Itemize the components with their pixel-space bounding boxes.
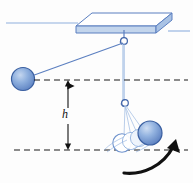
diagram-svg: [0, 0, 193, 183]
lower-pivot-hook: [121, 100, 128, 107]
figure-canvas: h: [0, 0, 193, 183]
string-to-raised-ball: [26, 43, 123, 78]
swinging-ball: [138, 121, 162, 145]
height-label: h: [62, 108, 68, 120]
raised-ball: [12, 68, 35, 91]
vertical-string: [123, 44, 125, 101]
